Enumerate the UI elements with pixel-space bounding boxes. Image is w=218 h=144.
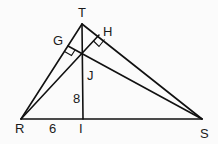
- label-measure-JI: 8: [73, 91, 80, 106]
- altitude-TI: [82, 24, 83, 119]
- label-I: I: [79, 121, 83, 136]
- label-S: S: [200, 126, 209, 141]
- label-R: R: [15, 121, 24, 136]
- diagram-canvas: T G H J 8 R 6 I S: [0, 0, 218, 144]
- right-angle-mark-G: [65, 50, 76, 56]
- label-T: T: [78, 5, 86, 20]
- segment-TS: [82, 24, 202, 119]
- label-G: G: [53, 33, 63, 48]
- label-J: J: [87, 68, 94, 83]
- triangle-diagram: T G H J 8 R 6 I S: [0, 0, 218, 144]
- label-H: H: [103, 24, 112, 39]
- label-measure-RI: 6: [49, 121, 56, 136]
